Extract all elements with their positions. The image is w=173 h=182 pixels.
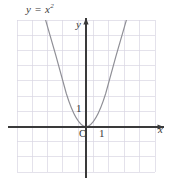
x-axis-label: x [158,124,163,135]
graph-figure: y = x2 y x O 1 1 [0,0,173,182]
y-axis-tick-label-1: 1 [76,103,82,114]
origin-label: O [79,128,87,139]
x-axis-tick-label-1: 1 [99,128,105,139]
y-axis-arrow [83,18,88,25]
y-axis-label: y [76,19,81,30]
equation-label: y = x2 [26,3,54,15]
axis-y [83,18,88,178]
parabola-plot [0,0,173,182]
